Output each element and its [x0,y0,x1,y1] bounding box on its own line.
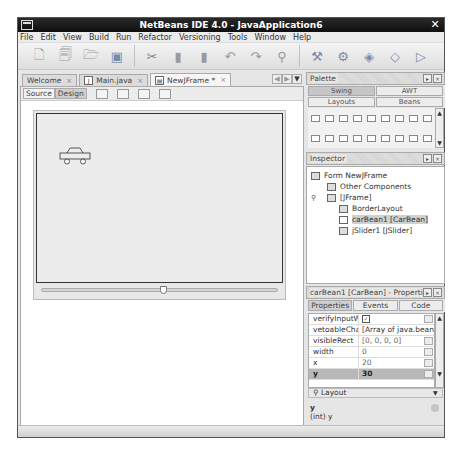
cut-icon[interactable]: ✂ [144,48,160,64]
ellipsis-button[interactable] [424,337,433,345]
property-row[interactable]: width 0 [309,347,434,358]
properties-scrollbar[interactable]: ▲ ▼ [435,313,444,388]
minimize-icon[interactable]: ▸ [423,74,432,83]
jlabel-icon[interactable] [311,115,320,122]
jprogressbar-icon[interactable] [423,135,432,142]
tab-close-icon[interactable]: × [220,76,226,84]
build-icon[interactable]: ⚒ [309,48,325,64]
jtextarea-icon[interactable] [311,135,320,142]
preview-design-icon[interactable] [138,89,150,99]
clean-build-icon[interactable]: ⚙ [335,48,351,64]
menu-window[interactable]: Window [254,33,286,42]
redo-icon[interactable]: ↷ [248,48,264,64]
help-icon[interactable] [431,404,439,412]
ellipsis-button[interactable] [424,370,433,378]
property-row[interactable]: verifyInputWhen ✓ [309,314,434,325]
jscrollpane-icon[interactable] [367,135,376,142]
close-window-button[interactable]: ✕ [428,18,442,32]
source-view-button[interactable]: Source [23,88,55,99]
palette-category-beans[interactable]: Beans [376,97,443,107]
jcombobox-icon[interactable] [395,115,404,122]
expand-icon[interactable]: ⚲ [313,388,321,397]
jslider-icon[interactable] [409,135,418,142]
copy-icon[interactable]: ▮ [170,48,186,64]
tab-main-java[interactable]: J Main.java × [79,74,148,86]
step-icon[interactable]: ▷ [413,48,429,64]
menu-help[interactable]: Help [293,33,311,42]
debug-icon[interactable]: ◇ [387,48,403,64]
scroll-tabs-right-icon[interactable]: ▶ [282,74,292,84]
ellipsis-button[interactable] [424,348,433,356]
palette-category-swing[interactable]: Swing [308,86,375,96]
open-project-icon[interactable]: 🗁 [83,48,99,64]
tab-welcome[interactable]: Welcome × [22,74,77,86]
find-icon[interactable]: ⚲ [274,48,290,64]
jslider-component[interactable] [41,288,278,292]
test-form-icon[interactable] [159,89,171,99]
scroll-up-icon[interactable]: ▲ [436,109,443,117]
minimize-icon[interactable]: ▸ [423,288,432,297]
jtabbedpane-icon[interactable] [339,135,348,142]
jbutton-icon[interactable] [325,115,334,122]
ellipsis-button[interactable] [424,359,433,367]
undo-icon[interactable]: ↶ [222,48,238,64]
ellipsis-button[interactable] [424,315,433,323]
tab-properties[interactable]: Properties [308,300,352,311]
tab-list-dropdown-icon[interactable]: ▼ [292,74,302,84]
property-row[interactable]: visibleRect [0, 0, 0, 0] [309,336,434,347]
jpanel-icon[interactable] [325,135,334,142]
jcheckbox-icon[interactable] [353,115,362,122]
close-icon[interactable]: × [433,154,442,163]
menu-view[interactable]: View [63,33,82,42]
tree-node-jslider1[interactable]: jSlider1 [JSlider] [307,225,444,236]
menu-refactor[interactable]: Refactor [138,33,172,42]
property-row-selected[interactable]: y 30 [309,369,434,380]
title-bar[interactable]: NetBeans IDE 4.0 - JavaApplication6 ✕ [18,18,444,32]
property-row[interactable]: x 20 [309,358,434,369]
jtextfield-icon[interactable] [423,115,432,122]
run-icon[interactable]: ◈ [361,48,377,64]
menu-tools[interactable]: Tools [228,33,248,42]
menu-versioning[interactable]: Versioning [179,33,221,42]
jscrollbar-icon[interactable] [353,135,362,142]
jframe-component[interactable] [33,110,286,300]
new-file-icon[interactable]: 🗋 [31,48,47,64]
jradiobutton-icon[interactable] [367,115,376,122]
palette-scrollbar[interactable]: ▲ ▼ [435,108,444,148]
jtogglebutton-icon[interactable] [339,115,348,122]
close-icon[interactable]: × [433,288,442,297]
checkbox[interactable]: ✓ [362,315,370,323]
tree-node-borderlayout[interactable]: BorderLayout [307,203,444,214]
menu-build[interactable]: Build [89,33,109,42]
palette-category-layouts[interactable]: Layouts [308,97,375,107]
tree-node-form[interactable]: Form NewJFrame [307,170,444,181]
tab-newjframe[interactable]: ▤ NewJFrame * × [150,73,231,86]
design-view-button[interactable]: Design [55,88,87,99]
slider-thumb[interactable] [160,286,167,294]
tree-node-jframe[interactable]: ⚲ [JFrame] [307,192,444,203]
tree-node-carbean1[interactable]: carBean1 [CarBean] [307,214,444,225]
paste-icon[interactable]: ▮ [196,48,212,64]
jmenubar-icon[interactable] [381,135,390,142]
connection-mode-icon[interactable] [117,89,129,99]
carbean-component[interactable] [36,113,283,283]
save-all-icon[interactable]: ▣ [109,48,125,64]
scroll-down-icon[interactable]: ▼ [436,139,443,147]
jlist-icon[interactable] [409,115,418,122]
tab-events[interactable]: Events [353,300,397,311]
scroll-tabs-left-icon[interactable]: ◀ [272,74,282,84]
palette-category-awt[interactable]: AWT [376,86,443,96]
jpopupmenu-icon[interactable] [395,135,404,142]
tab-close-icon[interactable]: × [66,77,72,85]
menu-edit[interactable]: Edit [40,33,56,42]
tab-close-icon[interactable]: × [137,77,143,85]
tree-node-other-components[interactable]: Other Components [307,181,444,192]
menu-run[interactable]: Run [116,33,131,42]
close-icon[interactable]: × [433,74,442,83]
property-group-layout[interactable]: ⚲ Layout ▼ [308,388,443,398]
tab-code[interactable]: Code [399,300,443,311]
chevron-down-icon[interactable]: ▼ [433,389,441,397]
tree-expand-handle[interactable]: ⚲ [311,194,319,202]
buttongroup-icon[interactable] [381,115,390,122]
design-canvas[interactable] [21,102,303,425]
